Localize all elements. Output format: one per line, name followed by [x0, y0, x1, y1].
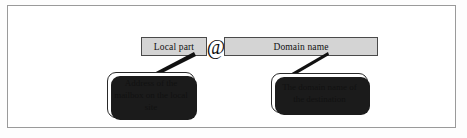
- local-part-callout-text: Address of the mailbox on the local site: [108, 77, 194, 113]
- local-part-label: Local part: [154, 42, 194, 52]
- domain-name-label: Domain name: [273, 42, 328, 52]
- figure-frame: Local part @ Domain name Address of the …: [7, 5, 456, 128]
- email-address-structure-diagram: Local part @ Domain name Address of the …: [0, 0, 467, 138]
- local-part-callout: Address of the mailbox on the local site: [107, 72, 195, 118]
- at-sign-glyph: @: [207, 37, 225, 57]
- at-sign-icon: @: [207, 34, 225, 59]
- domain-name-callout-text: The domain name of the destination: [272, 81, 367, 105]
- domain-name-callout: The domain name of the destination: [271, 73, 368, 113]
